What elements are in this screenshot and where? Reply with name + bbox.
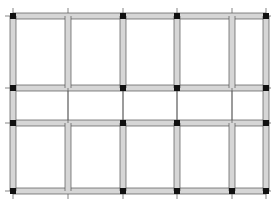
column-node — [174, 188, 180, 194]
column-node — [10, 13, 16, 19]
column-node — [174, 13, 180, 19]
beam-vertical — [174, 16, 180, 88]
column-node — [120, 85, 126, 91]
beam-vertical — [174, 123, 180, 191]
beam-horizontal — [13, 85, 266, 91]
beams — [10, 13, 269, 194]
column-node — [120, 188, 126, 194]
column-node — [174, 85, 180, 91]
column-node — [263, 120, 269, 126]
column-node — [10, 188, 16, 194]
framing-plan — [0, 0, 271, 205]
beam-vertical — [65, 16, 71, 88]
column-node — [10, 85, 16, 91]
beam-horizontal — [13, 120, 266, 126]
column-node — [120, 13, 126, 19]
secondary-lines — [68, 88, 232, 123]
beam-horizontal — [13, 188, 266, 194]
beam-vertical — [120, 123, 126, 191]
column-node — [263, 13, 269, 19]
column-node — [120, 120, 126, 126]
beam-vertical — [229, 123, 235, 191]
beam-horizontal — [13, 13, 266, 19]
column-node — [10, 120, 16, 126]
column-node — [229, 188, 235, 194]
column-node — [174, 120, 180, 126]
beam-vertical — [120, 16, 126, 88]
beam-vertical — [263, 16, 269, 191]
beam-vertical — [10, 16, 16, 191]
column-node — [263, 188, 269, 194]
column-node — [263, 85, 269, 91]
beam-vertical — [229, 16, 235, 88]
beam-vertical — [65, 123, 71, 191]
